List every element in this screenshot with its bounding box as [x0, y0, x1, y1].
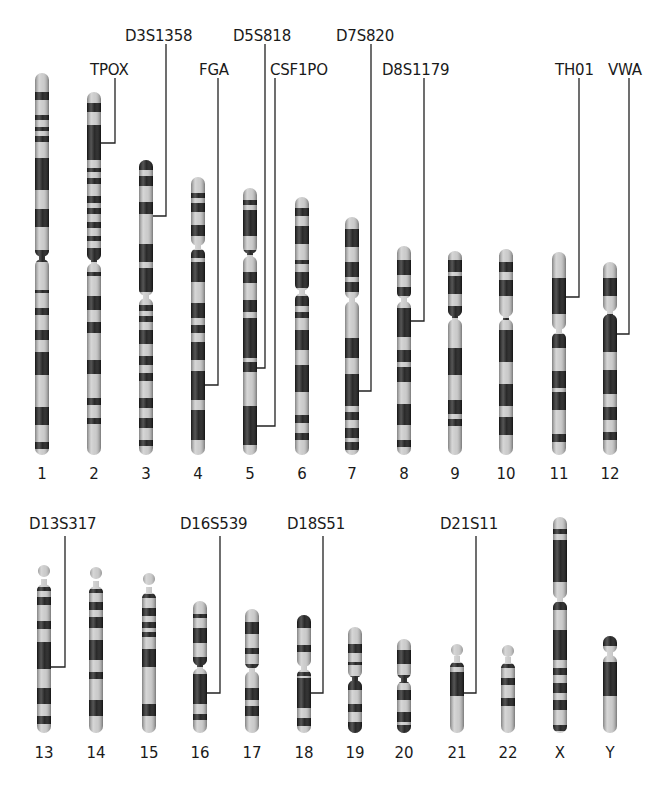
chromosome-Y — [603, 636, 617, 733]
chromosome-number-2: 2 — [74, 465, 114, 483]
chromosome-number-7: 7 — [332, 465, 372, 483]
chromosome-3 — [139, 160, 153, 455]
chromosome-17 — [245, 609, 259, 733]
marker-line-d5s818 — [257, 44, 265, 368]
chromosome-number-19: 19 — [335, 744, 375, 762]
chromosome-number-15: 15 — [129, 744, 169, 762]
marker-line-d7s820 — [359, 44, 371, 391]
marker-line-fga — [205, 78, 218, 385]
marker-label-d8s1179: D8S1179 — [382, 61, 449, 79]
chromosome-number-21: 21 — [437, 744, 477, 762]
chromosome-ideogram — [0, 0, 667, 797]
marker-label-d18s51: D18S51 — [287, 515, 345, 533]
marker-label-d3s1358: D3S1358 — [125, 27, 192, 45]
marker-line-d3s1358 — [153, 44, 166, 216]
marker-line-tpox — [101, 78, 115, 143]
chromosome-22 — [501, 645, 515, 733]
chromosome-4 — [191, 177, 205, 455]
chromosome-1 — [35, 73, 49, 455]
chromosome-21 — [450, 644, 464, 733]
chromosome-number-6: 6 — [282, 465, 322, 483]
marker-label-d21s11: D21S11 — [440, 515, 498, 533]
chromosome-number-X: X — [540, 744, 580, 762]
chromosome-number-10: 10 — [486, 465, 526, 483]
chromosome-number-Y: Y — [590, 744, 630, 762]
chromosome-5 — [243, 188, 257, 455]
chromosome-2 — [87, 92, 101, 455]
marker-label-csf1po: CSF1PO — [270, 61, 328, 79]
chromosome-14 — [89, 567, 103, 733]
marker-line-csf1po — [257, 78, 275, 426]
marker-line-d18s51 — [311, 536, 323, 693]
chromosome-X — [553, 517, 567, 733]
chromosome-19 — [348, 627, 362, 733]
chromosome-number-11: 11 — [539, 465, 579, 483]
chromosome-number-3: 3 — [126, 465, 166, 483]
chromosome-number-4: 4 — [178, 465, 218, 483]
chromosome-number-9: 9 — [435, 465, 475, 483]
chromosome-15 — [142, 573, 156, 733]
chromosome-number-12: 12 — [590, 465, 630, 483]
marker-label-d13s317: D13S317 — [29, 515, 96, 533]
chromosome-6 — [295, 197, 309, 455]
chromosome-11 — [552, 252, 566, 455]
chromosome-20 — [397, 639, 411, 733]
marker-label-vwa: VWA — [608, 61, 642, 79]
marker-line-d13s317 — [51, 536, 65, 667]
marker-label-d7s820: D7S820 — [336, 27, 394, 45]
chromosome-13 — [37, 565, 51, 733]
marker-line-vwa — [617, 78, 629, 334]
chromosome-10 — [499, 249, 513, 455]
chromosome-18 — [297, 615, 311, 733]
chromosome-number-18: 18 — [284, 744, 324, 762]
marker-line-d21s11 — [464, 536, 476, 693]
marker-line-d8s1179 — [411, 78, 424, 321]
chromosome-16 — [193, 601, 207, 733]
marker-label-d16s539: D16S539 — [180, 515, 247, 533]
chromosome-number-14: 14 — [76, 744, 116, 762]
marker-line-d16s539 — [207, 536, 220, 693]
chromosome-number-22: 22 — [488, 744, 528, 762]
chromosome-9 — [448, 251, 462, 455]
chromosome-number-13: 13 — [24, 744, 64, 762]
marker-line-th01 — [566, 78, 579, 297]
chromosome-number-1: 1 — [22, 465, 62, 483]
chromosome-8 — [397, 246, 411, 455]
marker-label-tpox: TPOX — [90, 61, 129, 79]
chromosome-7 — [345, 217, 359, 455]
chromosome-number-5: 5 — [230, 465, 270, 483]
chromosome-number-17: 17 — [232, 744, 272, 762]
chromosome-number-8: 8 — [384, 465, 424, 483]
marker-label-fga: FGA — [199, 61, 229, 79]
chromosome-number-16: 16 — [180, 744, 220, 762]
marker-label-th01: TH01 — [555, 61, 594, 79]
chromosome-number-20: 20 — [384, 744, 424, 762]
chromosome-12 — [603, 262, 617, 455]
marker-label-d5s818: D5S818 — [233, 27, 291, 45]
